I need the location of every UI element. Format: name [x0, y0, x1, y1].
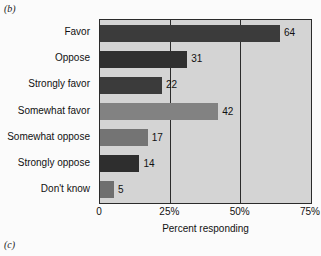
chart-category-axis: FavorOpposeStrongly favorSomewhat favorS…	[0, 19, 95, 204]
bar	[100, 129, 148, 146]
chart-bars: 6431224217145	[100, 20, 311, 203]
x-tick-label: 25%	[159, 207, 179, 217]
bar	[100, 103, 218, 120]
category-label: Somewhat oppose	[7, 132, 90, 142]
bar-row: 14	[100, 155, 311, 172]
bar	[100, 181, 114, 198]
bar-row: 64	[100, 25, 311, 42]
bar	[100, 155, 139, 172]
figure-panel-b: (b) 6431224217145 FavorOpposeStrongly fa…	[0, 0, 321, 256]
bar-value-label: 5	[118, 185, 124, 195]
bar-row: 42	[100, 103, 311, 120]
chart-x-axis-ticks: 025%50%75%	[99, 207, 312, 221]
panel-label-c: (c)	[4, 239, 15, 250]
bar-row: 31	[100, 51, 311, 68]
bar	[100, 51, 187, 68]
category-label: Don't know	[41, 184, 90, 194]
category-label: Oppose	[55, 53, 90, 63]
bar-value-label: 31	[191, 54, 202, 64]
bar-row: 17	[100, 129, 311, 146]
bar-value-label: 17	[152, 133, 163, 143]
bar-value-label: 64	[284, 28, 295, 38]
bar-value-label: 14	[143, 159, 154, 169]
bar	[100, 25, 280, 42]
chart-plot-area: 6431224217145	[99, 19, 312, 204]
x-tick-label: 75%	[300, 207, 320, 217]
bar-value-label: 22	[166, 80, 177, 90]
x-tick-label: 0	[96, 207, 102, 217]
category-label: Favor	[64, 27, 90, 37]
chart-x-axis-title: Percent responding	[99, 223, 312, 234]
category-label: Strongly oppose	[18, 158, 90, 168]
bar-row: 5	[100, 181, 311, 198]
x-tick-label: 50%	[230, 207, 250, 217]
category-label: Strongly favor	[28, 79, 90, 89]
panel-label-b: (b)	[4, 3, 16, 14]
bar-row: 22	[100, 77, 311, 94]
category-label: Somewhat favor	[18, 106, 90, 116]
bar-value-label: 42	[222, 107, 233, 117]
bar	[100, 77, 162, 94]
